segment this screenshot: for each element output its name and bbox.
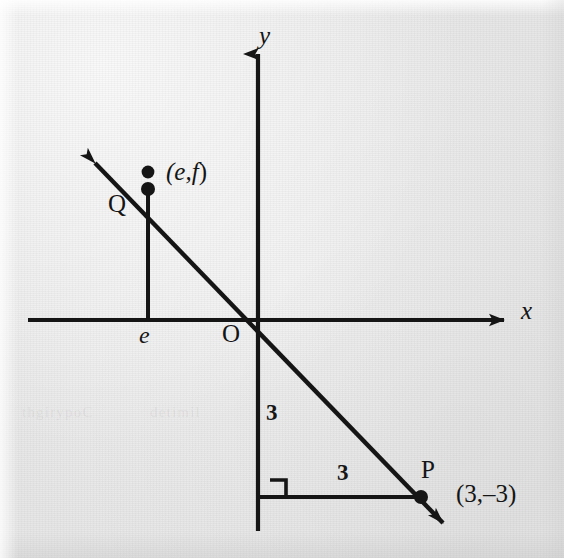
point-p-coordinates-label: (3,–3) bbox=[456, 480, 516, 508]
point-q-coordinates-close: ) bbox=[199, 158, 207, 185]
origin-label: O bbox=[222, 320, 240, 348]
y-axis-label: y bbox=[259, 22, 270, 50]
point-q-coordinates-label: (e,f) bbox=[166, 158, 207, 186]
point-q-label: Q bbox=[108, 190, 126, 218]
point-q-coordinates-open: (e, bbox=[166, 158, 192, 185]
figure-page: thgirypoC detimil bbox=[0, 0, 564, 558]
slope-run-label: 3 bbox=[337, 460, 349, 486]
q-foot-x-label: e bbox=[139, 322, 150, 349]
slope-rise-label: 3 bbox=[266, 400, 278, 426]
diagram-canvas bbox=[0, 0, 564, 558]
right-angle-marker bbox=[270, 480, 286, 496]
point-p-label: P bbox=[421, 456, 435, 484]
point-q-coordinates-f: f bbox=[192, 158, 199, 185]
point-q-dot bbox=[141, 182, 155, 196]
point-p-dot bbox=[414, 490, 428, 504]
x-axis-label: x bbox=[521, 297, 532, 325]
point-ef-dot bbox=[142, 166, 155, 179]
